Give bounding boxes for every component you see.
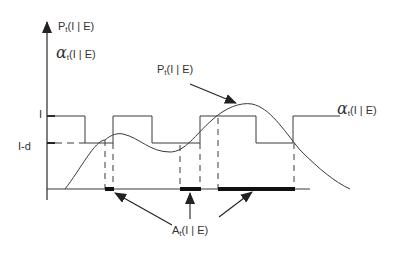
y-axis-label-alpha: αt(I | E) — [56, 45, 96, 61]
y-axis-label-probability: Pt(I | E) — [58, 21, 94, 32]
region-arrow-1 — [115, 193, 172, 225]
curve-label-subscript: t — [164, 68, 166, 77]
curve-label-arrow — [190, 84, 236, 103]
alpha-symbol: α — [56, 43, 67, 62]
p-subscript: t — [65, 25, 67, 34]
p-args: (I | E) — [68, 20, 95, 32]
region-label: At(I | E) — [172, 225, 208, 236]
alpha-args: (I | E) — [69, 48, 96, 60]
probability-threshold-diagram — [0, 0, 400, 253]
level-label-upper: I — [39, 109, 42, 120]
step-function-label: αt(I | E) — [337, 101, 377, 117]
region-label-subscript: t — [179, 229, 181, 238]
step-label-args: (I | E) — [350, 104, 377, 116]
step-label-symbol: α — [337, 99, 348, 118]
region-arrow-3 — [219, 192, 252, 217]
step-label-subscript: t — [348, 109, 350, 118]
region-label-args: (I | E) — [182, 224, 209, 236]
alpha-subscript: t — [67, 53, 69, 62]
curve-label-args: (I | E) — [167, 63, 194, 75]
level-label-lower: I-d — [18, 141, 31, 152]
curve-label: Pt(I | E) — [157, 64, 193, 75]
